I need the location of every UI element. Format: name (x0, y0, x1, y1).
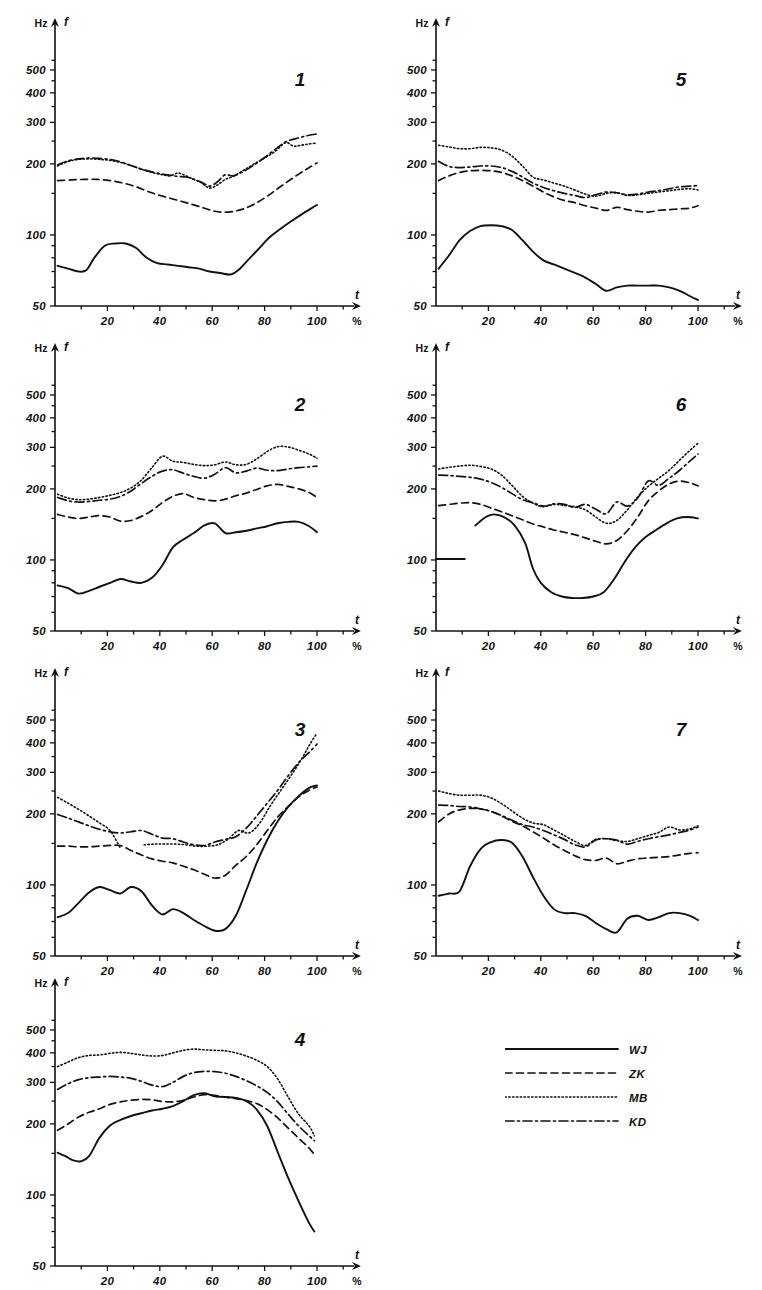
legend-entry-mb: MB (505, 1092, 648, 1104)
y-tick-label: 200 (406, 483, 427, 495)
y-tick-label: 500 (26, 64, 46, 76)
chart-panel-4: 5004003002001005020406080100Hzft%4 (0, 960, 381, 1290)
curve-zk (439, 481, 698, 544)
y-axis-variable-label: f (445, 340, 450, 354)
y-axis-variable-label: f (445, 15, 450, 29)
chart-panel-2: 5004003002001005020406080100Hzft%2 (0, 325, 381, 655)
y-tick-label: 400 (25, 412, 46, 424)
x-axis-variable-label: t (736, 938, 741, 952)
y-tick-label: 100 (407, 229, 427, 241)
panel-number: 1 (295, 69, 306, 90)
y-tick-label: 100 (26, 554, 46, 566)
chart-svg-3: 5004003002001005020406080100Hzft%3 (0, 650, 381, 980)
curve-mb (58, 446, 317, 499)
chart-svg-1: 5004003002001005020406080100Hzft%1 (0, 0, 381, 330)
curve-wj (58, 785, 317, 931)
y-tick-label: 400 (406, 737, 427, 749)
y-tick-label: 100 (407, 554, 427, 566)
curve-mb (58, 143, 317, 189)
y-axis-unit-label: Hz (35, 17, 48, 29)
y-tick-label: 300 (26, 766, 46, 778)
curve-wj (475, 514, 698, 598)
legend-entry-zk: ZK (505, 1068, 646, 1080)
x-axis-variable-label: t (736, 613, 741, 627)
legend-entry-wj: WJ (505, 1044, 647, 1056)
y-tick-label: 400 (406, 412, 427, 424)
y-tick-label: 50 (33, 300, 47, 312)
y-axis-variable-label: f (64, 340, 69, 354)
y-tick-label: 100 (407, 879, 427, 891)
x-tick-label: 20 (481, 965, 496, 977)
curve-mb (144, 733, 317, 846)
curve-mb (439, 791, 698, 845)
y-axis-variable-label: f (64, 975, 69, 989)
y-tick-label: 50 (414, 300, 428, 312)
x-axis-unit-label: % (733, 965, 743, 977)
chart-svg-6: 5004003002001005020406080100Hzft%6 (381, 325, 762, 655)
y-tick-label: 100 (26, 879, 46, 891)
y-tick-label: 500 (26, 714, 46, 726)
x-axis-variable-label: t (355, 1248, 360, 1262)
y-tick-label: 50 (33, 625, 47, 637)
x-axis-variable-label: t (355, 288, 360, 302)
y-tick-label: 200 (25, 483, 46, 495)
panel-number: 3 (295, 719, 306, 740)
curve-wj (439, 840, 698, 933)
y-tick-label: 300 (407, 441, 427, 453)
y-tick-label: 400 (406, 87, 427, 99)
y-tick-label: 300 (26, 1076, 46, 1088)
y-tick-label: 200 (25, 158, 46, 170)
y-tick-label: 300 (26, 116, 46, 128)
curve-zk (58, 787, 317, 878)
curve-kd (58, 134, 317, 186)
x-tick-label: 40 (533, 965, 548, 977)
curve-zk (58, 163, 317, 212)
x-tick-label: 100 (307, 1275, 327, 1287)
y-tick-label: 400 (25, 87, 46, 99)
curve-wj (58, 205, 317, 275)
legend-label-mb: MB (629, 1092, 648, 1104)
y-axis-unit-label: Hz (416, 342, 429, 354)
y-axis-variable-label: f (64, 665, 69, 679)
y-axis-unit-label: Hz (35, 667, 48, 679)
y-tick-label: 500 (407, 714, 427, 726)
y-tick-label: 400 (25, 737, 46, 749)
panel-number: 6 (676, 394, 687, 415)
curve-mb (58, 1049, 315, 1136)
panel-number: 5 (676, 69, 687, 90)
curve-kd (439, 805, 698, 847)
chart-panel-7: 5004003002001005020406080100Hzft%7 (381, 650, 762, 980)
x-tick-label: 80 (639, 965, 653, 977)
panel-number: 7 (676, 719, 688, 740)
legend-svg: WJ ZK MB KD (505, 1040, 705, 1136)
x-tick-label: 40 (152, 1275, 167, 1287)
y-tick-label: 400 (25, 1047, 46, 1059)
y-tick-label: 50 (414, 950, 428, 962)
y-axis-unit-label: Hz (416, 17, 429, 29)
y-tick-label: 500 (407, 389, 427, 401)
y-tick-label: 300 (26, 441, 46, 453)
panel-number: 4 (294, 1029, 306, 1050)
legend-label-wj: WJ (629, 1044, 647, 1056)
y-tick-label: 300 (407, 766, 427, 778)
chart-svg-7: 5004003002001005020406080100Hzft%7 (381, 650, 762, 980)
y-tick-label: 500 (407, 64, 427, 76)
curve-wj (58, 1093, 315, 1231)
chart-panel-1: 5004003002001005020406080100Hzft%1 (0, 0, 381, 330)
x-tick-label: 20 (100, 1275, 115, 1287)
curve-mb (58, 797, 121, 848)
y-tick-label: 200 (25, 1118, 46, 1130)
curve-kd (439, 454, 698, 514)
y-tick-label: 100 (26, 1189, 46, 1201)
curve-wj (58, 521, 317, 593)
x-axis-variable-label: t (355, 613, 360, 627)
x-axis-variable-label: t (355, 938, 360, 952)
legend-label-zk: ZK (628, 1068, 646, 1080)
curve-kd (58, 1071, 315, 1140)
y-tick-label: 200 (25, 808, 46, 820)
y-axis-unit-label: Hz (416, 667, 429, 679)
x-axis-variable-label: t (736, 288, 741, 302)
y-tick-label: 200 (406, 158, 427, 170)
x-tick-label: 100 (688, 965, 708, 977)
panel-number: 2 (294, 394, 306, 415)
